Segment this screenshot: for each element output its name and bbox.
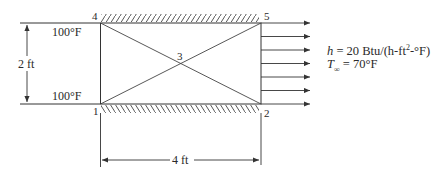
height-dimension-label: 2 ft: [18, 58, 34, 70]
top-temperature-label: 100°F: [52, 26, 81, 38]
t-value: = 70°F: [340, 57, 378, 71]
width-dimension-label: 4 ft: [172, 154, 188, 166]
node-label-2: 2: [264, 108, 270, 119]
t-symbol: T: [327, 57, 334, 71]
top-insulation-hatch: [101, 14, 259, 22]
node-label-3: 3: [177, 51, 183, 62]
bottom-insulation-hatch: [101, 105, 259, 113]
h-tail: -°F): [410, 44, 430, 58]
node-label-1: 1: [93, 106, 99, 117]
bottom-temperature-label: 100°F: [52, 90, 81, 102]
node-label-4: 4: [92, 11, 98, 22]
convection-coefficient-label: h = 20 Btu/(h-ft2-°F): [327, 44, 430, 58]
ambient-temperature-label: T∞ = 70°F: [327, 58, 377, 74]
convection-arrows: [261, 23, 310, 104]
node-label-5: 5: [264, 11, 270, 22]
